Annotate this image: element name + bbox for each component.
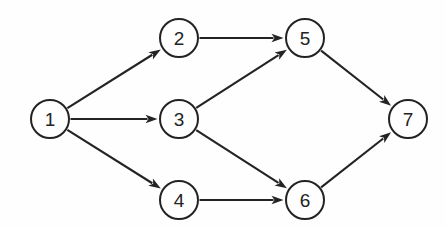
arrow-head-icon	[148, 49, 160, 59]
node-label: 7	[403, 109, 414, 130]
edges-layer	[67, 34, 391, 205]
graph-edge-6-to-7	[321, 132, 391, 187]
edge-line	[67, 130, 152, 183]
graph-diagram: 1234567	[0, 0, 446, 229]
graph-edge-1-to-4	[67, 130, 160, 189]
node-label: 1	[45, 109, 56, 130]
arrow-head-icon	[275, 50, 287, 60]
graph-edge-2-to-5	[200, 34, 284, 43]
graph-edge-3-to-5	[196, 50, 287, 108]
graph-edge-4-to-6	[200, 196, 284, 205]
arrow-head-icon	[275, 178, 287, 188]
graph-node-1[interactable]: 1	[31, 100, 69, 138]
graph-node-4[interactable]: 4	[160, 181, 198, 219]
graph-edge-1-to-3	[71, 115, 158, 124]
graph-node-7[interactable]: 7	[389, 100, 427, 138]
edge-line	[321, 138, 383, 187]
edge-line	[196, 130, 278, 183]
edge-line	[67, 55, 152, 108]
graph-canvas: 1234567	[0, 0, 446, 229]
graph-node-2[interactable]: 2	[160, 19, 198, 57]
node-label: 4	[174, 190, 185, 211]
node-label: 5	[300, 28, 311, 49]
node-label: 6	[300, 190, 311, 211]
graph-node-5[interactable]: 5	[286, 19, 324, 57]
graph-node-3[interactable]: 3	[160, 100, 198, 138]
edge-line	[196, 55, 278, 108]
node-label: 2	[174, 28, 185, 49]
arrow-head-icon	[148, 179, 160, 189]
graph-node-6[interactable]: 6	[286, 181, 324, 219]
graph-edge-5-to-7	[321, 51, 391, 106]
graph-edge-3-to-6	[196, 130, 287, 188]
node-label: 3	[174, 109, 185, 130]
graph-edge-1-to-2	[67, 49, 160, 108]
edge-line	[321, 51, 383, 100]
